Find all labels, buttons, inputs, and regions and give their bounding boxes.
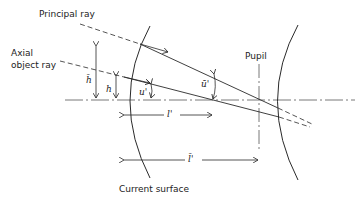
u-prime-angle: [151, 84, 152, 98]
ray-diagram: [0, 0, 361, 198]
l-prime-symbol: l': [167, 109, 172, 119]
principal-ray-label: Principal ray: [39, 9, 95, 20]
axial-ray-label-line2: object ray: [11, 60, 56, 71]
h-bar-symbol: h̄: [86, 75, 92, 85]
current-surface-label: Current surface: [119, 184, 189, 195]
u-bar-prime-symbol: ū': [201, 79, 209, 89]
second-surface: [278, 25, 299, 180]
axial-object-ray: [60, 61, 310, 127]
axial-ray-label-line1: Axial: [11, 48, 33, 59]
pupil-label: Pupil: [245, 51, 267, 62]
l-bar-prime-symbol: l̄': [188, 154, 193, 164]
current-surface: [130, 26, 150, 178]
h-symbol: h: [106, 84, 112, 94]
u-prime-symbol: u': [139, 87, 147, 97]
